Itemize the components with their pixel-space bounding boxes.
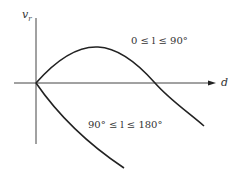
curve-lower-label: 90° ≤ l ≤ 180° — [88, 119, 162, 130]
x-axis-label: d — [221, 76, 228, 89]
x-axis-arrow-icon — [208, 81, 216, 86]
y-axis-label: vr — [22, 8, 32, 23]
curve-upper-label: 0 ≤ l ≤ 90° — [131, 35, 188, 46]
diagram: vr d 0 ≤ l ≤ 90° 90° ≤ l ≤ 180° — [0, 0, 238, 172]
